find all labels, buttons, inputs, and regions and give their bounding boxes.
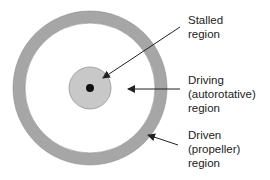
driving-region-label: Driving (autorotative) region	[188, 74, 259, 114]
rotor-disk-diagram: Stalled region Driving (autorotative) re…	[0, 0, 270, 180]
stalled-region-label: Stalled region	[188, 14, 226, 40]
center-hub-dot	[86, 84, 94, 92]
driven-arrow	[148, 135, 178, 145]
driven-region-label: Driven (propeller) region	[188, 129, 244, 169]
